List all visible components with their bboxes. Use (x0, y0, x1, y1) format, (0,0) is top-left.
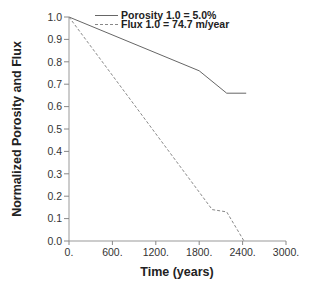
legend-entry: Flux 1.0 = 74.7 m/year (121, 18, 229, 30)
x-tick-label: 1800. (186, 246, 212, 258)
y-tick-label: 1.0 (47, 11, 62, 23)
y-tick-label: 0.7 (47, 78, 62, 90)
y-tick-label: 0.3 (47, 168, 62, 180)
y-tick-label: 0.0 (47, 235, 62, 247)
x-tick-label: 600. (102, 246, 122, 258)
plot-lines (69, 17, 246, 241)
axes: 0.00.10.20.30.40.50.60.70.80.91.00.600.1… (47, 11, 299, 258)
x-tick-label: 1200. (143, 246, 169, 258)
y-tick-label: 0.9 (47, 33, 62, 45)
y-tick-label: 0.8 (47, 56, 62, 68)
x-tick-label: 2400. (229, 246, 255, 258)
x-axis-label: Time (years) (140, 265, 213, 279)
y-tick-label: 0.5 (47, 123, 62, 135)
x-tick-label: 3000. (273, 246, 299, 258)
legend: Porosity 1.0 = 5.0%Flux 1.0 = 74.7 m/yea… (95, 9, 229, 30)
chart: 0.00.10.20.30.40.50.60.70.80.91.00.600.1… (0, 0, 311, 291)
y-tick-label: 0.6 (47, 100, 62, 112)
y-axis-label: Normalized Porosity and Flux (10, 41, 24, 217)
y-tick-label: 0.2 (47, 190, 62, 202)
x-tick-label: 0. (65, 246, 74, 258)
y-tick-label: 0.4 (47, 145, 62, 157)
y-tick-label: 0.1 (47, 212, 62, 224)
flux-line (69, 17, 244, 241)
